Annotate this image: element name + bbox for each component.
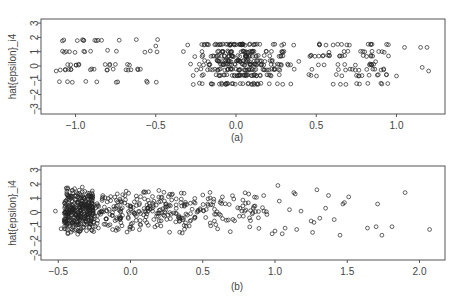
- data-point: [165, 218, 169, 222]
- data-point: [317, 63, 321, 67]
- data-point: [134, 38, 138, 42]
- data-point: [403, 191, 407, 195]
- data-point: [427, 69, 431, 73]
- data-point: [198, 62, 202, 66]
- data-point: [380, 82, 384, 86]
- data-point: [54, 69, 58, 73]
- data-point: [168, 230, 172, 234]
- data-point: [268, 54, 272, 58]
- data-point: [180, 204, 184, 208]
- y-axis-title: hat{epsilon}_i4: [7, 180, 18, 246]
- data-point: [127, 191, 131, 195]
- y-tick-label: −1: [29, 221, 40, 233]
- data-point: [273, 229, 277, 233]
- data-point: [142, 207, 146, 211]
- scatter-points: [54, 38, 430, 87]
- data-point: [201, 203, 205, 207]
- data-point: [134, 219, 138, 223]
- data-point: [344, 83, 348, 87]
- data-point: [358, 82, 362, 86]
- data-point: [385, 73, 389, 77]
- data-point: [374, 225, 378, 229]
- data-point: [243, 191, 247, 195]
- data-point: [270, 50, 274, 54]
- data-point: [337, 68, 341, 72]
- data-point: [221, 195, 225, 199]
- data-point: [419, 46, 423, 50]
- data-point: [236, 206, 240, 210]
- data-point: [281, 82, 285, 86]
- data-point: [162, 190, 166, 194]
- data-point: [370, 49, 374, 53]
- data-point: [189, 212, 193, 216]
- data-point: [241, 82, 245, 86]
- data-point: [338, 233, 342, 237]
- data-point: [346, 49, 350, 53]
- data-point: [310, 67, 314, 71]
- data-point: [390, 225, 394, 229]
- data-point: [277, 199, 281, 203]
- data-point: [227, 203, 231, 207]
- y-tick-label: −2: [29, 235, 40, 247]
- data-point: [278, 68, 282, 72]
- data-point: [148, 49, 152, 53]
- y-tick-label: −1: [29, 74, 40, 86]
- data-point: [214, 223, 218, 227]
- data-point: [75, 39, 79, 43]
- data-point: [277, 73, 281, 77]
- data-point: [315, 188, 319, 192]
- data-point: [387, 54, 391, 58]
- data-point: [342, 50, 346, 54]
- data-point: [66, 80, 70, 84]
- data-point: [178, 230, 182, 234]
- scatter-points: [54, 184, 432, 238]
- y-tick-label: 3: [29, 167, 40, 173]
- x-tick-label: 0.5: [309, 120, 323, 131]
- data-point: [311, 231, 315, 235]
- data-point: [152, 218, 156, 222]
- data-point: [420, 66, 424, 70]
- data-point: [216, 227, 220, 231]
- data-point: [251, 54, 255, 58]
- data-point: [288, 208, 292, 212]
- data-point: [125, 230, 129, 234]
- data-point: [100, 38, 104, 42]
- data-point: [174, 220, 178, 224]
- data-point: [331, 82, 335, 86]
- data-point: [174, 197, 178, 201]
- data-point: [357, 68, 361, 72]
- data-point: [336, 63, 340, 67]
- y-tick-label: 2: [29, 34, 40, 40]
- data-point: [324, 43, 328, 47]
- data-point: [191, 74, 195, 78]
- data-point: [180, 231, 184, 235]
- data-point: [182, 50, 186, 54]
- data-point: [195, 68, 199, 72]
- data-point: [365, 68, 369, 72]
- data-point: [292, 67, 296, 71]
- data-point: [213, 219, 217, 223]
- data-point: [223, 202, 227, 206]
- data-point: [73, 51, 77, 55]
- data-point: [262, 54, 266, 58]
- data-point: [380, 233, 384, 237]
- scatter-panel-b: −0.50.00.51.01.52.0−3−2−10123hat{epsilon…: [7, 166, 445, 292]
- data-point: [186, 43, 190, 47]
- data-point: [190, 207, 194, 211]
- data-point: [317, 54, 321, 58]
- data-point: [89, 49, 93, 53]
- data-point: [115, 49, 119, 53]
- x-tick-label: 0.5: [196, 266, 210, 277]
- data-point: [334, 73, 338, 77]
- data-point: [154, 80, 158, 84]
- y-axis-title: hat{epsilon}_i4: [7, 33, 18, 99]
- data-point: [347, 195, 351, 199]
- data-point: [280, 232, 284, 236]
- data-point: [366, 42, 370, 46]
- data-point: [344, 68, 348, 72]
- data-point: [215, 55, 219, 59]
- data-point: [58, 80, 62, 84]
- x-tick-label: 0.0: [124, 266, 138, 277]
- y-tick-label: −2: [29, 88, 40, 100]
- data-point: [201, 193, 205, 197]
